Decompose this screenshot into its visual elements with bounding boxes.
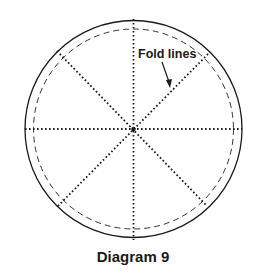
arrowhead-icon xyxy=(166,79,172,88)
fold-line-diagonal-desc xyxy=(57,51,206,205)
center-point xyxy=(131,127,135,131)
diagram-caption: Diagram 9 xyxy=(0,248,256,265)
fold-diagram: Fold lines xyxy=(0,0,256,276)
fold-lines-label: Fold lines xyxy=(138,47,196,61)
annotation-arrow-line xyxy=(162,62,169,82)
